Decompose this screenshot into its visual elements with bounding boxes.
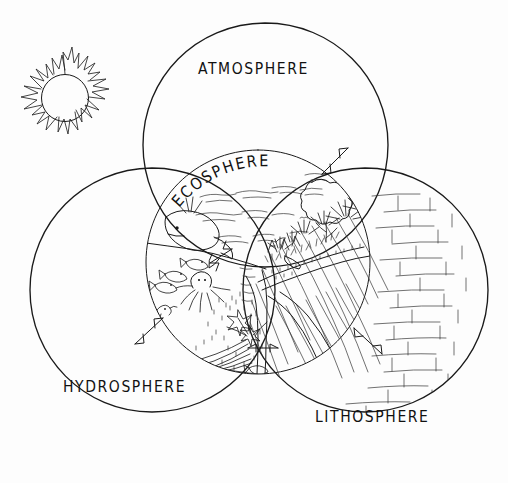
arrow-ecosphere-lithosphere[interactable]: [354, 328, 382, 354]
lithosphere-label: LITHOSPHERE: [315, 408, 430, 426]
octopus-icon: [176, 272, 230, 312]
birds-icon: [300, 217, 308, 218]
arrow-sea-land[interactable]: [248, 344, 278, 352]
ecosphere-venn-diagram: ATMOSPHERE HYDROSPHERE LITHOSPHERE ECOSP…: [0, 0, 508, 483]
fish-icon: [149, 258, 268, 375]
ecosphere-label: ECOSPHERE: [168, 151, 270, 210]
whale-icon[interactable]: [165, 197, 233, 268]
sun-icon[interactable]: [21, 47, 109, 134]
hydrosphere-circle[interactable]: [30, 168, 275, 412]
arrow-hydrosphere-ecosphere[interactable]: [135, 318, 163, 344]
lithosphere-circle[interactable]: [243, 168, 488, 412]
diagram-canvas: ATMOSPHERE HYDROSPHERE LITHOSPHERE ECOSP…: [0, 0, 508, 483]
atmosphere-label: ATMOSPHERE: [198, 60, 309, 78]
hydrosphere-label: HYDROSPHERE: [63, 378, 186, 396]
